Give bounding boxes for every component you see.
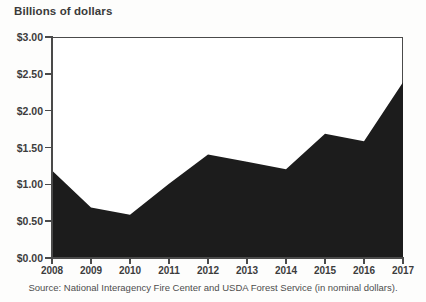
y-axis-tick-label: $1.50 <box>17 143 43 154</box>
y-axis-tick-label: $1.00 <box>17 179 43 190</box>
area-series-shape <box>52 82 403 259</box>
plot-area <box>52 37 403 258</box>
x-axis-tick-label: 2013 <box>236 266 258 276</box>
x-axis-tick-label: 2012 <box>197 266 219 276</box>
x-axis-tick <box>168 258 170 264</box>
y-axis-tick-label: $3.00 <box>17 32 43 43</box>
area-series-svg <box>52 38 403 259</box>
x-axis-tick-label: 2011 <box>158 266 180 276</box>
y-axis-tick <box>45 184 52 186</box>
x-axis-line <box>51 257 404 259</box>
y-axis-tick-label: $0.50 <box>17 216 43 227</box>
x-axis-tick-label: 2014 <box>275 266 297 276</box>
x-axis-tick <box>402 258 404 264</box>
y-axis-tick-label: $2.50 <box>17 69 43 80</box>
y-axis-tick-label: $0.00 <box>17 253 43 264</box>
x-axis-tick <box>246 258 248 264</box>
chart-figure: Billions of dollars $0.00$0.50$1.00$1.50… <box>0 0 426 302</box>
y-axis-tick <box>45 147 52 149</box>
x-axis-tick <box>129 258 131 264</box>
source-note: Source: National Interagency Fire Center… <box>0 282 426 293</box>
x-axis-tick <box>207 258 209 264</box>
x-axis-tick <box>90 258 92 264</box>
y-axis-tick <box>45 73 52 75</box>
x-axis-tick <box>324 258 326 264</box>
y-axis-tick-label: $2.00 <box>17 106 43 117</box>
x-axis-tick-label: 2008 <box>41 266 63 276</box>
x-axis-tick-label: 2017 <box>392 266 414 276</box>
y-axis-tick <box>45 220 52 222</box>
x-axis-tick <box>363 258 365 264</box>
x-axis-tick-label: 2016 <box>353 266 375 276</box>
x-axis-tick-label: 2009 <box>80 266 102 276</box>
y-axis-tick <box>45 36 52 38</box>
x-axis-tick-label: 2010 <box>119 266 141 276</box>
y-axis-tick <box>45 110 52 112</box>
y-axis-title: Billions of dollars <box>14 5 112 17</box>
x-axis-tick <box>285 258 287 264</box>
x-axis-tick <box>51 258 53 264</box>
x-axis-tick-label: 2015 <box>314 266 336 276</box>
